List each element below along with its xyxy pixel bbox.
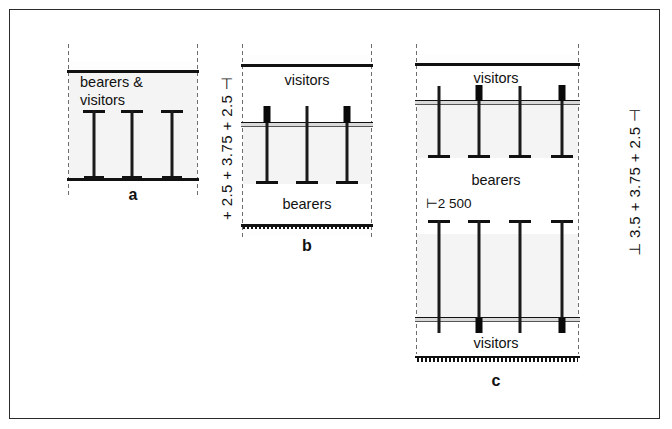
panel-c-centerline-right: [578, 44, 579, 354]
column-shaft: [519, 318, 522, 333]
column-shaft: [438, 86, 441, 101]
panel-b-column: [336, 122, 358, 184]
panel-b-roof-slab: [241, 64, 373, 67]
column-base: [336, 181, 358, 184]
panel-c-dimension-note: ⊢2 500: [426, 195, 472, 211]
panel-c-upper-column-stub: [509, 86, 531, 101]
panel-a-column: [161, 110, 183, 179]
dimension-stack-right-text: ⊥ 3.5 + 3.75 + 2.5 ⊣: [626, 108, 644, 256]
panel-b-caption: b: [302, 237, 312, 255]
panel-c-lower-column-block: [559, 318, 566, 333]
panel-c-caption: c: [492, 372, 501, 390]
panel-c-lower-column: [509, 220, 531, 320]
panel-c-ground-stipple: [417, 54, 578, 63]
panel-c-upper-column: [468, 100, 490, 158]
column-shaft: [519, 86, 522, 101]
column-base: [468, 155, 490, 158]
column-base: [551, 155, 573, 158]
panel-a-ground-stipple: [69, 61, 197, 70]
panel-b-ground-stipple: [243, 55, 371, 64]
panel-a-column: [83, 110, 105, 179]
panel-b-label-bottom: bearers: [282, 196, 331, 213]
column-shaft: [93, 110, 96, 179]
panel-c-upper-column-block: [559, 85, 566, 101]
panel-c-lower-column-stub: [509, 318, 531, 333]
panel-b-centerline-right: [371, 44, 372, 239]
column-base: [256, 181, 278, 184]
column-shaft: [306, 122, 309, 184]
panel-a: bearers & visitors a: [58, 44, 208, 219]
column-shaft: [438, 318, 441, 333]
panel-b-column-block: [344, 106, 351, 123]
column-shaft: [561, 100, 564, 158]
column-shaft: [519, 220, 522, 320]
panel-a-label-line1: bearers &: [80, 74, 143, 91]
panel-c-upper-column-block: [476, 85, 483, 101]
panel-c-roof-slab: [415, 63, 580, 66]
column-shaft: [131, 110, 134, 179]
column-shaft: [478, 100, 481, 158]
panel-c-label-middle: bearers: [471, 172, 520, 189]
panel-b-column-stub: [296, 106, 318, 123]
panel-b-label-top: visitors: [284, 72, 329, 89]
panel-c-lower-column-block: [476, 318, 483, 333]
panel-c-base-stipple: [417, 362, 578, 370]
column-shaft: [306, 106, 309, 123]
panel-c-upper-column: [428, 100, 450, 158]
column-shaft: [438, 100, 441, 158]
column-shaft: [266, 122, 269, 184]
column-base: [296, 181, 318, 184]
panel-c-upper-column: [509, 100, 531, 158]
column-shaft: [346, 122, 349, 184]
panel-b-column-block: [264, 106, 271, 123]
panel-c-lower-column: [468, 220, 490, 320]
panel-a-column: [121, 110, 143, 179]
panel-a-caption: a: [129, 186, 138, 204]
panel-c-label-bottom: visitors: [473, 335, 518, 352]
panel-c-lower-column-stub: [428, 318, 450, 333]
panel-c-base-slab: [415, 356, 580, 358]
panel-b-column: [296, 122, 318, 184]
column-base: [428, 155, 450, 158]
column-base: [509, 155, 531, 158]
panel-c-lower-column: [428, 220, 450, 320]
panel-b: visitors bearers: [232, 44, 382, 264]
column-shaft: [478, 220, 481, 320]
panel-c: visitors: [406, 44, 586, 384]
column-shaft: [438, 220, 441, 320]
panel-b-column: [256, 122, 278, 184]
column-shaft: [171, 110, 174, 179]
panel-c-upper-column: [551, 100, 573, 158]
panel-c-upper-column-stub: [428, 86, 450, 101]
column-shaft: [561, 220, 564, 320]
panel-c-lower-column: [551, 220, 573, 320]
dimension-stack-middle: + 2.5 + 3.75 + 2.5 ⊣: [198, 44, 226, 234]
panel-a-label-line2: visitors: [80, 92, 125, 109]
panel-a-roof-slab: [67, 70, 199, 73]
panel-b-base-stipple: [243, 229, 371, 236]
figure-page: bearers & visitors a + 2.5 + 3.75 + 2.5 …: [0, 0, 672, 429]
figure-frame: bearers & visitors a + 2.5 + 3.75 + 2.5 …: [9, 9, 660, 419]
column-shaft: [519, 100, 522, 158]
panel-a-floor-slab: [67, 178, 199, 181]
dimension-stack-right: ⊥ 3.5 + 3.75 + 2.5 ⊣: [604, 44, 634, 274]
